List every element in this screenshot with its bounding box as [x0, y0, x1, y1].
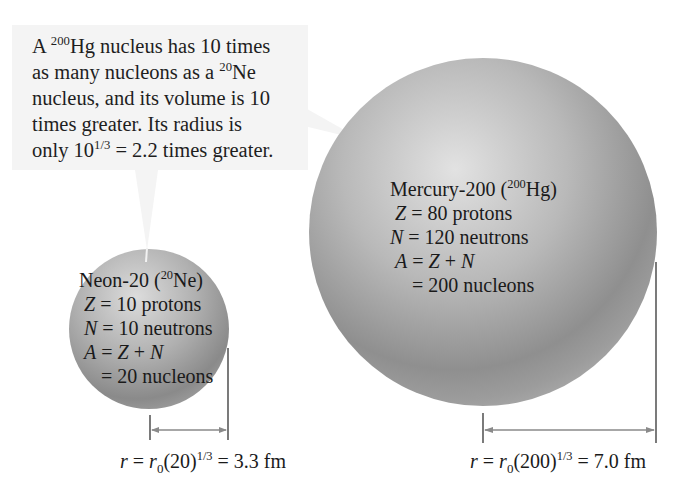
- neon-title: Neon-20 (20Ne): [79, 268, 213, 292]
- mercury-nucleons: = 200 nucleons: [390, 273, 557, 297]
- mercury-title: Mercury-200 (200Hg): [390, 177, 557, 201]
- mercury-radius-formula: r = r0(200)1/3 = 7.0 fm: [470, 450, 646, 473]
- mercury-protons: Z = 80 protons: [390, 201, 557, 225]
- neon-radius-formula: r = r0(20)1/3 = 3.3 fm: [120, 450, 286, 473]
- mercury-mass-equation: A = Z + N: [390, 249, 557, 273]
- callout-line-3: nucleus, and its volume is 10: [32, 85, 308, 111]
- callout-line-4: times greater. Its radius is: [32, 111, 308, 137]
- neon-protons: Z = 10 protons: [79, 292, 213, 316]
- mercury-neutrons: N = 120 neutrons: [390, 225, 557, 249]
- neon-neutrons: N = 10 neutrons: [79, 316, 213, 340]
- callout-line-1: A 200Hg nucleus has 10 times: [32, 33, 308, 59]
- mercury-label: Mercury-200 (200Hg) Z = 80 protons N = 1…: [390, 177, 557, 297]
- callout-line-2: as many nucleons as a 20Ne: [32, 59, 308, 85]
- neon-nucleons: = 20 nucleons: [79, 364, 213, 388]
- neon-label: Neon-20 (20Ne) Z = 10 protons N = 10 neu…: [79, 268, 213, 388]
- neon-mass-equation: A = Z + N: [79, 340, 213, 364]
- explanation-callout: A 200Hg nucleus has 10 times as many nuc…: [12, 25, 308, 170]
- callout-line-5: only 101/3 = 2.2 times greater.: [32, 137, 308, 163]
- callout-pointer-to-neon: [135, 170, 158, 250]
